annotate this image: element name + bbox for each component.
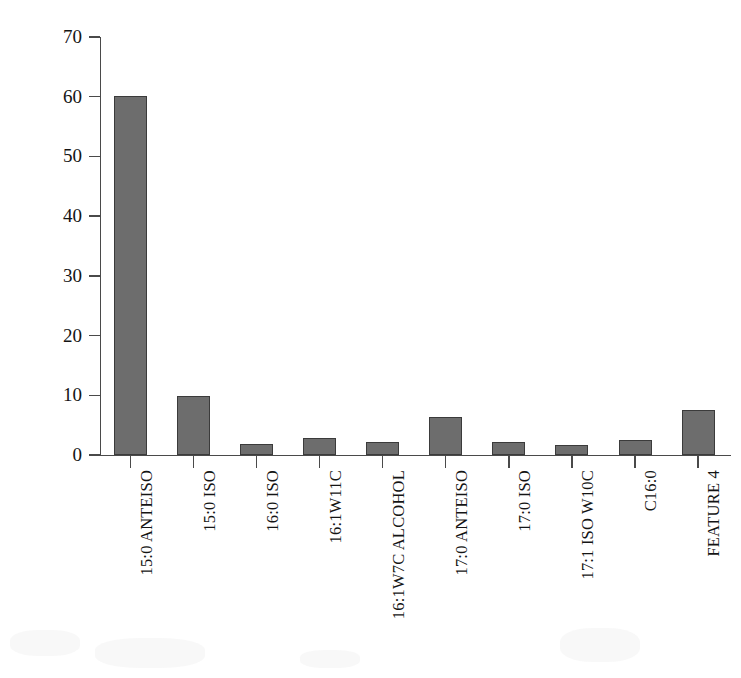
scan-artifact bbox=[10, 630, 80, 656]
x-axis-tick bbox=[445, 456, 446, 468]
x-axis-category-label: 15:0 ANTEISO bbox=[138, 470, 156, 670]
bar bbox=[114, 96, 147, 455]
y-axis-tick bbox=[89, 96, 100, 97]
bar bbox=[682, 410, 715, 455]
x-axis-tick bbox=[382, 456, 383, 468]
x-axis-tick bbox=[571, 456, 572, 468]
bar bbox=[240, 444, 273, 455]
bar bbox=[429, 417, 462, 455]
bar bbox=[303, 438, 336, 455]
x-axis-line bbox=[100, 455, 731, 456]
y-axis-tick-label: 20 bbox=[20, 326, 82, 345]
y-axis-tick-label: 10 bbox=[20, 385, 82, 404]
x-axis-category-label: 16:0 ISO bbox=[264, 470, 282, 670]
x-axis-category-label: 16:1W7C ALCOHOL bbox=[390, 470, 408, 670]
bar bbox=[555, 445, 588, 455]
x-axis-category-label: 15:0 ISO bbox=[201, 470, 219, 670]
x-axis-tick bbox=[319, 456, 320, 468]
x-axis-category-label: FEATURE 4 bbox=[705, 470, 723, 670]
x-axis-category-label: 16:1W11C bbox=[327, 470, 345, 670]
y-axis-tick-label: 70 bbox=[20, 27, 82, 46]
y-axis-line bbox=[100, 37, 101, 456]
bar bbox=[366, 442, 399, 455]
y-axis-tick bbox=[89, 335, 100, 336]
bar bbox=[177, 396, 210, 455]
x-axis-tick bbox=[697, 456, 698, 468]
y-axis-tick bbox=[89, 215, 100, 216]
y-axis-tick bbox=[89, 454, 100, 455]
x-axis-category-label: C16:0 bbox=[642, 470, 660, 670]
y-axis-tick-label: 50 bbox=[20, 146, 82, 165]
y-axis-tick-label: 30 bbox=[20, 266, 82, 285]
x-axis-tick bbox=[130, 456, 131, 468]
y-axis-tick bbox=[89, 395, 100, 396]
scan-artifact bbox=[560, 628, 640, 662]
x-axis-tick bbox=[256, 456, 257, 468]
y-axis-tick-label: 0 bbox=[20, 445, 82, 464]
x-axis-tick bbox=[634, 456, 635, 468]
y-axis-tick-label: 60 bbox=[20, 87, 82, 106]
x-axis-tick bbox=[193, 456, 194, 468]
bar bbox=[619, 440, 652, 455]
x-axis-category-label: 17:0 ISO bbox=[516, 470, 534, 670]
y-axis-tick-label: 40 bbox=[20, 206, 82, 225]
x-axis-category-label: 17:1 ISO W10C bbox=[579, 470, 597, 670]
x-axis-category-label: 17:0 ANTEISO bbox=[453, 470, 471, 670]
y-axis-tick bbox=[89, 36, 100, 37]
y-axis-tick bbox=[89, 275, 100, 276]
bar bbox=[492, 442, 525, 455]
y-axis-tick bbox=[89, 156, 100, 157]
x-axis-tick bbox=[508, 456, 509, 468]
bar-chart-figure: 脂肪酸含量/% 010203040506070 15:0 ANTEISO15:0… bbox=[0, 0, 741, 678]
